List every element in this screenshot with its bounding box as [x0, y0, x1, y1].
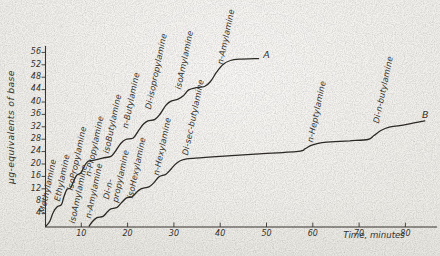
y-tick-label: 20 — [19, 160, 41, 168]
x-tick-label: 80 — [396, 230, 414, 238]
y-tick-label: 52 — [19, 61, 41, 69]
y-tick-label: 36 — [19, 110, 41, 118]
chromatogram-figure: μg-equivalents of base Time, minutes 102… — [0, 0, 440, 256]
curve-endpoint-label: B — [422, 109, 429, 119]
x-tick-label: 40 — [211, 230, 229, 238]
y-tick-label: 28 — [19, 135, 41, 143]
x-tick-label: 50 — [258, 230, 276, 238]
x-tick-label: 30 — [165, 230, 183, 238]
y-tick-label: 24 — [19, 147, 41, 155]
y-tick-label: 32 — [19, 123, 41, 131]
y-tick-label: 16 — [19, 172, 41, 180]
y-tick-label: 44 — [19, 85, 41, 93]
curve-endpoint-label: A — [263, 50, 270, 60]
y-tick-label: 12 — [19, 185, 41, 193]
x-tick-label: 70 — [350, 230, 368, 238]
y-axis-title: μg-equivalents of base — [6, 70, 15, 184]
y-tick-label: 40 — [19, 98, 41, 106]
x-tick-label: 20 — [119, 230, 137, 238]
x-tick-label: 10 — [72, 230, 90, 238]
y-tick-label: 48 — [19, 73, 41, 81]
y-tick-label: 56 — [19, 48, 41, 56]
x-tick-label: 60 — [304, 230, 322, 238]
